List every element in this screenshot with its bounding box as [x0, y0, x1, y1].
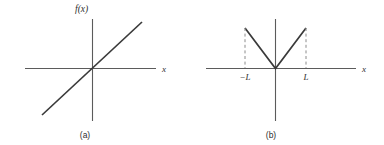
panel-a-x-axis-label: x	[161, 64, 166, 74]
panel-b-x-axis-label: x	[361, 64, 366, 74]
panel-b-tick-right-label: L	[302, 72, 308, 82]
panel-b: −L L x (b)	[206, 19, 366, 140]
panel-a: f(x) x (a)	[25, 4, 166, 140]
panel-b-tick-left-label: −L	[239, 72, 250, 82]
figure-svg: f(x) x (a) −L L x (b)	[0, 0, 384, 145]
panel-a-y-axis-label: f(x)	[75, 4, 88, 15]
panel-a-caption: (a)	[80, 130, 91, 140]
panel-b-caption: (b)	[266, 130, 277, 140]
figure-container: f(x) x (a) −L L x (b)	[0, 0, 384, 145]
